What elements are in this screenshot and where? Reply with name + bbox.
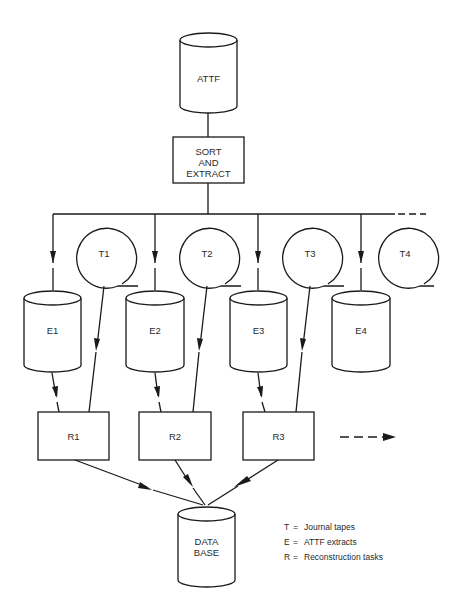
extract-e4-label: E4: [355, 325, 367, 336]
svg-text:R: R: [284, 552, 290, 562]
sort-extract-line-1: SORT: [195, 146, 221, 157]
arrow-down-icon: [300, 338, 306, 351]
arrow-down-icon: [94, 338, 100, 351]
tape-t2: T2: [180, 228, 241, 288]
arrow-right-icon: [383, 433, 396, 441]
svg-text:=: =: [293, 552, 298, 562]
legend-item-e: E = ATTF extracts: [284, 537, 357, 547]
tape-t3-to-r3-arrow: [296, 286, 310, 412]
arrow-down-icon: [358, 251, 364, 263]
svg-text:ATTF extracts: ATTF extracts: [304, 537, 357, 547]
task-r3-label: R3: [272, 431, 284, 442]
tape-t4-label: T4: [399, 248, 410, 259]
drop-line-e3: [255, 214, 261, 290]
arrow-down-icon: [152, 251, 158, 263]
svg-text:=: =: [293, 522, 298, 532]
database-cylinder: DATA BASE: [178, 507, 235, 587]
extract-e2: E2: [126, 291, 184, 372]
legend-item-t: T = Journal tapes: [284, 522, 355, 532]
legend-item-r: R = Reconstruction tasks: [284, 552, 383, 562]
task-r2-label: R2: [169, 431, 181, 442]
task-r1-label: R1: [67, 431, 79, 442]
arrow-down-icon: [255, 251, 261, 263]
tape-t2-to-r2-arrow: [193, 286, 207, 412]
arrow-down-icon: [52, 386, 58, 398]
extract-e1: E1: [24, 291, 81, 372]
svg-text:E: E: [284, 537, 290, 547]
svg-text:Journal tapes: Journal tapes: [304, 522, 355, 532]
sort-extract-line-2: AND: [198, 157, 218, 168]
drop-line-e4: [358, 214, 364, 290]
arrow-down-icon: [257, 386, 263, 398]
tape-t3-label: T3: [304, 248, 315, 259]
svg-text:Reconstruction tasks: Reconstruction tasks: [304, 552, 383, 562]
reconstruction-flow-diagram: ATTF SORT AND EXTRACT T1 T2: [0, 0, 460, 613]
database-label-line-2: BASE: [194, 547, 219, 558]
drop-line-e1: [50, 214, 56, 290]
svg-text:=: =: [293, 537, 298, 547]
task-r1-to-database-arrow: [75, 460, 203, 505]
extract-e1-to-r1-arrow: [52, 373, 59, 412]
arrow-down-icon: [154, 386, 160, 398]
attf-cylinder: ATTF: [180, 33, 237, 113]
extract-e1-label: E1: [47, 325, 59, 336]
extract-e3-to-r3-arrow: [257, 373, 265, 412]
extract-e4: E4: [332, 291, 390, 372]
legend: T = Journal tapes E = ATTF extracts R = …: [284, 522, 383, 562]
extract-e3-label: E3: [253, 325, 265, 336]
tape-t1: T1: [77, 228, 138, 288]
task-r3-to-database-arrow: [208, 460, 278, 505]
drop-line-e2: [152, 214, 158, 290]
arrow-down-icon: [197, 338, 203, 351]
extract-e2-to-r2-arrow: [154, 373, 161, 412]
database-label-line-1: DATA: [195, 536, 220, 547]
tape-t3: T3: [283, 228, 344, 288]
tape-t2-label: T2: [201, 248, 212, 259]
svg-text:T: T: [284, 522, 289, 532]
continuation-dashed-arrow: [340, 433, 396, 441]
task-r3: R3: [243, 412, 314, 460]
sort-extract-box: SORT AND EXTRACT: [173, 137, 244, 183]
task-r1: R1: [38, 412, 109, 460]
extract-e2-label: E2: [149, 325, 161, 336]
arrow-down-icon: [50, 251, 56, 263]
extract-e3: E3: [230, 291, 287, 372]
arrow-down-left-icon: [234, 476, 251, 487]
attf-label: ATTF: [197, 73, 220, 84]
sort-extract-line-3: EXTRACT: [186, 168, 231, 179]
tape-t4: T4: [379, 228, 439, 288]
tape-t1-label: T1: [98, 248, 109, 259]
arrow-down-right-icon: [138, 482, 152, 490]
task-r2: R2: [139, 412, 211, 460]
tape-t1-to-r1-arrow: [89, 286, 104, 412]
